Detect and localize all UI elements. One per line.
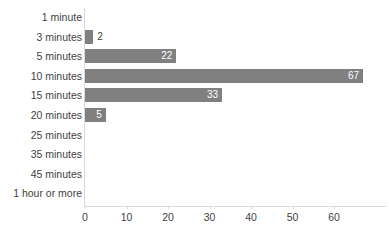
category-label: 20 minutes [0, 110, 82, 121]
x-tick-label: 10 [107, 212, 147, 224]
x-tick-mark [210, 206, 211, 209]
x-tick-mark [251, 206, 252, 209]
x-tick-mark [168, 206, 169, 209]
x-tick-mark [127, 206, 128, 209]
bar [85, 69, 363, 83]
x-tick-label: 60 [314, 212, 354, 224]
x-tick-mark [85, 206, 86, 209]
category-label: 1 hour or more [0, 188, 82, 199]
x-tick-label: 30 [190, 212, 230, 224]
x-tick-mark [334, 206, 335, 209]
x-tick-mark [293, 206, 294, 209]
category-label: 3 minutes [0, 32, 82, 43]
bar [85, 88, 222, 102]
x-tick-label: 20 [148, 212, 188, 224]
bar-value-label: 67 [345, 69, 359, 83]
bar-value-label: 2 [97, 30, 103, 44]
category-label: 45 minutes [0, 169, 82, 180]
x-axis-line [84, 206, 386, 207]
category-label: 15 minutes [0, 90, 82, 101]
bar-chart: 1 minute3 minutes5 minutes10 minutes15 m… [0, 0, 389, 236]
x-tick-label: 0 [65, 212, 105, 224]
category-label: 5 minutes [0, 51, 82, 62]
plot-area: 1 minute3 minutes5 minutes10 minutes15 m… [0, 0, 389, 236]
bar-value-label: 33 [204, 88, 218, 102]
category-label: 25 minutes [0, 130, 82, 141]
category-label: 1 minute [0, 12, 82, 23]
bar [85, 30, 93, 44]
x-tick-label: 40 [231, 212, 271, 224]
bar-value-label: 5 [88, 108, 102, 122]
category-label: 10 minutes [0, 71, 82, 82]
x-tick-label: 50 [273, 212, 313, 224]
category-label: 35 minutes [0, 149, 82, 160]
bar-value-label: 22 [158, 49, 172, 63]
